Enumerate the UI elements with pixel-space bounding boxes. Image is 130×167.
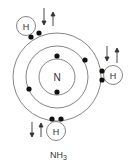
hydrogen-label: H bbox=[110, 71, 117, 81]
hydrogen-label: H bbox=[23, 22, 30, 32]
electron bbox=[54, 89, 59, 94]
formula-label: NH3 bbox=[50, 150, 67, 161]
spin-arrows-icon bbox=[30, 122, 43, 137]
electron bbox=[82, 57, 87, 62]
electron bbox=[99, 68, 104, 73]
electron bbox=[54, 53, 59, 58]
electron bbox=[26, 86, 31, 91]
electron bbox=[58, 116, 63, 121]
electron bbox=[99, 77, 104, 82]
electron bbox=[36, 30, 41, 35]
spin-arrows-icon bbox=[105, 46, 119, 63]
hydrogen-label: H bbox=[53, 127, 60, 137]
nh3-diagram: N H H H NH3 bbox=[0, 0, 130, 167]
nitrogen-label: N bbox=[53, 72, 60, 83]
electron bbox=[49, 116, 54, 121]
spin-arrows-icon bbox=[42, 8, 55, 26]
electron bbox=[28, 34, 33, 39]
